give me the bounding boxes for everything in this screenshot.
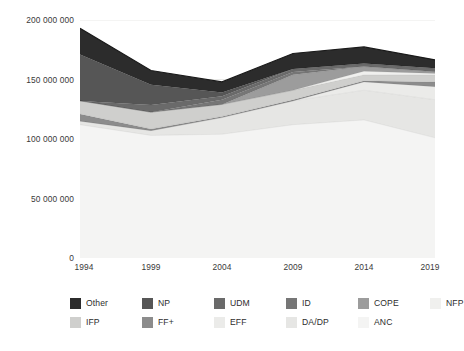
area-series-anc [80,120,435,258]
y-tick-label: 150 000 000 [26,75,74,85]
x-tick-label: 1999 [141,262,160,272]
x-tick-label: 2004 [212,262,231,272]
x-tick-label: 2009 [283,262,302,272]
legend-item-ff-[interactable]: FF+ [142,313,174,332]
legend-item-other[interactable]: Other [70,294,108,313]
x-tick-label: 1994 [74,262,93,272]
legend-item-da-dp[interactable]: DA/DP [286,313,329,332]
y-tick-label: 200 000 000 [26,15,74,25]
legend-label: NFP [446,298,464,309]
legend-swatch-icon [70,298,81,309]
legend-label: ID [302,298,311,309]
legend-swatch-icon [214,317,225,328]
legend-label: Other [86,298,108,309]
legend-item-ifp[interactable]: IFP [70,313,100,332]
y-tick-label: 100 000 000 [26,134,74,144]
legend-swatch-icon [214,298,225,309]
legend-item-nfp[interactable]: NFP [430,294,464,313]
legend-item-udm[interactable]: UDM [214,294,250,313]
x-axis: 199419992004200920142019 [80,262,435,278]
y-axis: 200 000 000150 000 000100 000 00050 000 … [0,0,74,280]
y-tick-label: 50 000 000 [31,194,74,204]
legend-label: NP [158,298,170,309]
legend-label: UDM [230,298,250,309]
legend-item-cope[interactable]: COPE [358,294,399,313]
legend-item-anc[interactable]: ANC [358,313,392,332]
legend-label: IFP [86,317,100,328]
legend-swatch-icon [142,317,153,328]
plot-svg [80,20,435,258]
legend-label: COPE [374,298,399,309]
legend-swatch-icon [142,298,153,309]
legend-label: DA/DP [302,317,329,328]
y-tick-label: 0 [69,253,74,263]
x-tick-label: 2019 [420,262,439,272]
legend-label: EFF [230,317,247,328]
legend-row: IFPFF+EFFDA/DPANC [70,313,445,332]
legend-swatch-icon [70,317,81,328]
legend-item-id[interactable]: ID [286,294,311,313]
legend-swatch-icon [358,317,369,328]
chart-legend: OtherNPUDMIDCOPENFPIFPFF+EFFDA/DPANC [70,294,445,332]
legend-swatch-icon [286,298,297,309]
legend-swatch-icon [358,298,369,309]
legend-label: ANC [374,317,392,328]
area-series-group [80,28,435,258]
legend-row: OtherNPUDMIDCOPENFP [70,294,445,313]
legend-swatch-icon [430,298,441,309]
x-tick-label: 2014 [354,262,373,272]
legend-swatch-icon [286,317,297,328]
legend-item-eff[interactable]: EFF [214,313,247,332]
plot-area [80,20,435,258]
legend-item-np[interactable]: NP [142,294,170,313]
legend-label: FF+ [158,317,174,328]
